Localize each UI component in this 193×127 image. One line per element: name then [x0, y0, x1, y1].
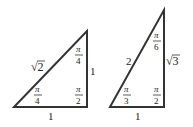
hypotenuse-label: 2 [126, 55, 132, 67]
svg-text:4: 4 [76, 56, 81, 66]
angle-right: π 2 [75, 84, 83, 106]
base-side-label: 1 [48, 110, 54, 122]
svg-text:π: π [154, 30, 159, 40]
vertical-side-label: 1 [90, 65, 96, 77]
svg-text:π: π [76, 84, 81, 94]
angle-bottom-left: π 4 [34, 84, 42, 106]
svg-text:π: π [154, 84, 159, 94]
svg-text:4: 4 [35, 96, 40, 106]
hypotenuse-label: √2 [31, 60, 45, 74]
angle-top: π 4 [75, 44, 83, 66]
svg-text:π: π [124, 84, 129, 94]
svg-text:π: π [35, 84, 40, 94]
svg-text:6: 6 [154, 42, 159, 52]
triangle-45-45-90: √2 1 1 π 4 π 4 π 2 [14, 31, 96, 122]
angle-bottom-left: π 3 [123, 84, 131, 106]
svg-text:π: π [76, 44, 81, 54]
special-triangles-diagram: √2 1 1 π 4 π 4 π 2 2 √3 [0, 0, 193, 127]
side-label: √2 [31, 60, 44, 74]
svg-text:2: 2 [76, 96, 81, 106]
svg-text:√3: √3 [166, 54, 179, 68]
base-side-label: 1 [135, 110, 141, 122]
angle-top: π 6 [153, 30, 161, 52]
svg-text:2: 2 [154, 96, 159, 106]
triangle-30-60-90: 2 √3 1 π 6 π 3 π 2 [110, 10, 180, 122]
angle-right: π 2 [153, 84, 161, 106]
svg-text:3: 3 [124, 96, 129, 106]
vertical-side-label: √3 [166, 54, 180, 68]
